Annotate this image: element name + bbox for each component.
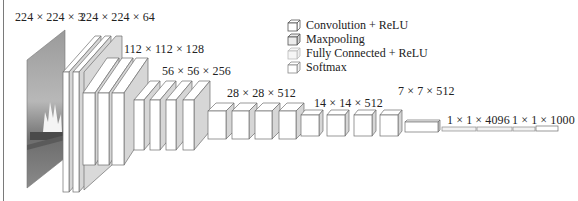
legend-label: Fully Connected + ReLU	[306, 46, 428, 61]
conv5-block	[301, 110, 402, 136]
label-softmax-dims: 1 × 1 × 1000	[512, 113, 575, 128]
legend-item-convolution: Convolution + ReLU	[287, 18, 428, 32]
label-conv2-dims: 112 × 112 × 128	[124, 42, 204, 57]
legend-label: Maxpooling	[306, 32, 365, 47]
conv4-block	[208, 103, 304, 139]
label-conv3-dims: 56 × 56 × 256	[162, 64, 231, 79]
legend-item-maxpooling: Maxpooling	[287, 32, 428, 46]
legend-item-fully-connected: Fully Connected + ReLU	[287, 46, 428, 60]
label-input-dims: 224 × 224 × 3	[15, 10, 84, 25]
legend-item-softmax: Softmax	[287, 60, 428, 74]
label-fc-dims: 1 × 1 × 4096	[447, 113, 510, 128]
pool5-block	[405, 120, 440, 132]
legend-label: Softmax	[306, 60, 347, 75]
label-conv1-dims: 224 × 224 × 64	[80, 10, 155, 25]
label-conv5-dims: 14 × 14 × 512	[314, 96, 383, 111]
legend-label: Convolution + ReLU	[306, 18, 408, 33]
conv3-block	[134, 81, 210, 150]
label-pool5-dims: 7 × 7 × 512	[398, 84, 455, 99]
label-conv4-dims: 28 × 28 × 512	[227, 86, 296, 101]
cube-light-icon	[287, 46, 301, 60]
cube-gray-icon	[287, 32, 301, 46]
cube-outline-icon	[287, 60, 301, 74]
cube-white-icon	[287, 18, 301, 32]
input-image	[27, 30, 65, 188]
legend: Convolution + ReLU Maxpooling Fully Conn…	[287, 18, 428, 74]
